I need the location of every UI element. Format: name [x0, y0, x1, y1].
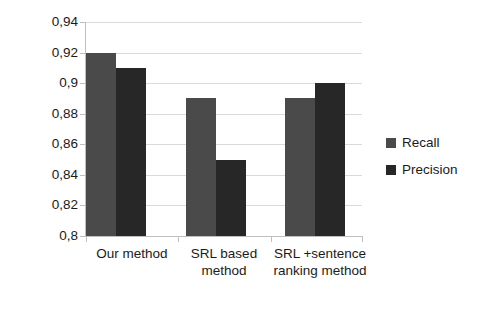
y-axis-tick-label: 0,94: [8, 15, 78, 29]
x-axis-tick-mark: [178, 236, 179, 242]
y-axis-tick-mark: [80, 205, 85, 206]
gridline: [86, 53, 362, 54]
gridline: [86, 22, 362, 23]
y-axis-labels: 0,940,920,90,880,860,840,820,8: [0, 0, 78, 317]
y-axis-tick-label: 0,92: [8, 46, 78, 60]
x-axis-tick-mark: [271, 236, 272, 242]
bar-precision-0: [116, 68, 146, 236]
y-axis-tick-mark: [80, 83, 85, 84]
bar-recall-0: [86, 53, 116, 236]
bar-precision-1: [216, 160, 246, 236]
legend-swatch-icon: [386, 138, 396, 148]
y-axis-tick-mark: [80, 144, 85, 145]
plot-area: [86, 22, 362, 236]
y-axis-tick-mark: [80, 175, 85, 176]
x-axis-tick-mark: [86, 236, 87, 242]
chart-legend: RecallPrecision: [386, 134, 458, 188]
legend-label: Precision: [402, 163, 458, 177]
y-axis-tick-label: 0,8: [8, 229, 78, 243]
legend-swatch-icon: [386, 165, 396, 175]
bar-chart: 0,940,920,90,880,860,840,820,8 Our metho…: [0, 0, 477, 317]
x-axis-category-label: SRL based method: [172, 246, 276, 279]
legend-item-precision[interactable]: Precision: [386, 161, 458, 178]
y-axis-tick-label: 0,86: [8, 137, 78, 151]
y-axis-tick-mark: [80, 22, 85, 23]
bar-precision-2: [315, 83, 345, 236]
gridline: [86, 236, 362, 237]
y-axis-tick-label: 0,88: [8, 107, 78, 121]
y-axis-tick-label: 0,9: [8, 76, 78, 90]
x-axis-category-label: SRL +sentence ranking method: [265, 246, 375, 279]
bar-recall-2: [285, 98, 315, 236]
y-axis-tick-mark: [80, 236, 85, 237]
x-axis-tick-mark: [362, 236, 363, 242]
legend-item-recall[interactable]: Recall: [386, 134, 458, 151]
bar-recall-1: [186, 98, 216, 236]
y-axis-tick-label: 0,84: [8, 168, 78, 182]
y-axis-tick-label: 0,82: [8, 198, 78, 212]
y-axis-tick-mark: [80, 114, 85, 115]
legend-label: Recall: [402, 136, 440, 150]
y-axis-tick-mark: [80, 53, 85, 54]
